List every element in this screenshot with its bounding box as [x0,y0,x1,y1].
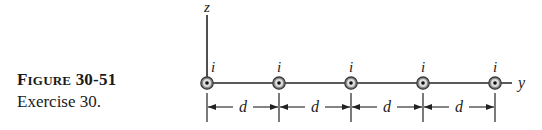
arrowhead-right [270,104,278,110]
wire-out-of-page-dot [493,81,497,85]
wire: i [201,59,215,89]
arrowhead-left [352,104,360,110]
wire: i [417,59,429,89]
wire: i [489,59,501,89]
arrowhead-left [424,104,432,110]
wires-diagram: z y iiiii dddd [0,0,542,130]
arrowhead-right [486,104,494,110]
spacing-label: d [311,98,320,115]
arrowhead-left [208,104,216,110]
current-label: i [277,59,281,75]
arrowhead-left [280,104,288,110]
z-axis-label: z [203,0,210,15]
spacing-label: d [383,98,392,115]
wire: i [273,59,285,89]
current-label: i [493,59,497,75]
spacing-dimension: d [208,98,278,115]
spacing-label: d [239,98,248,115]
spacing-dimension: d [424,98,494,115]
spacing-dimension: d [280,98,350,115]
arrowhead-right [342,104,350,110]
wire-out-of-page-dot [349,81,353,85]
spacing-label: d [455,98,464,115]
current-label: i [211,59,215,75]
y-axis-label: y [516,74,526,92]
wire-out-of-page-dot [205,81,209,85]
current-label: i [421,59,425,75]
wire-out-of-page-dot [421,81,425,85]
wire: i [345,59,357,89]
wire-out-of-page-dot [277,81,281,85]
current-label: i [349,59,353,75]
spacing-dimension: d [352,98,422,115]
arrowhead-right [414,104,422,110]
